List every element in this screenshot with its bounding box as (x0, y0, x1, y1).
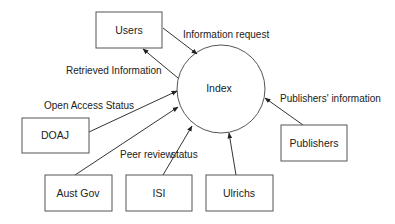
edge-open-access-status (89, 91, 177, 132)
node-users[interactable]: Users (96, 12, 162, 48)
edge-ulrichs (229, 133, 236, 175)
doaj-label: DOAJ (41, 129, 69, 141)
node-isi[interactable]: ISI (126, 175, 192, 211)
isi-label: ISI (153, 187, 166, 199)
node-aust-gov[interactable]: Aust Gov (45, 175, 112, 211)
label-status: status (171, 149, 198, 160)
index-process[interactable]: Index (177, 45, 265, 133)
label-retrieved-information: Retrieved Information (66, 65, 162, 76)
publishers-label: Publishers (289, 137, 338, 149)
ulrichs-label: Ulrichs (223, 187, 255, 199)
label-open-access-status: Open Access Status (44, 100, 134, 111)
node-publishers[interactable]: Publishers (281, 125, 347, 161)
index-label: Index (206, 82, 232, 94)
dataflow-diagram: Index Information request Retrieved Info… (0, 0, 395, 224)
aust-gov-label: Aust Gov (56, 187, 100, 199)
edge-aust-gov (75, 107, 178, 175)
node-doaj[interactable]: DOAJ (22, 118, 89, 153)
label-peer-review: Peer review (120, 149, 174, 160)
label-publishers-information: Publishers' information (280, 93, 381, 104)
users-label: Users (115, 24, 142, 36)
label-information-request: Information request (183, 29, 269, 40)
node-ulrichs[interactable]: Ulrichs (206, 175, 273, 211)
